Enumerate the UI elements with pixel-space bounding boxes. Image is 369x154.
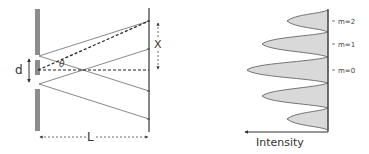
slit-geometry-panel: d θ X L [15,8,163,144]
double-slit-diagram: d θ X L m=2 m=1 m=0 Intensity [0,0,369,154]
peak-m1-upper [262,32,328,57]
intensity-axis-label: Intensity [256,136,304,149]
slit-separation-label: d [15,63,23,77]
peak-m2-lower [287,108,328,130]
peak-m2-upper [287,10,328,32]
dashed-lines [38,21,149,70]
order-label-m0: m=0 [338,67,355,75]
peak-m1-lower [262,83,328,108]
intensity-pattern-panel: m=2 m=1 m=0 Intensity [245,9,355,149]
order-label-m2: m=2 [338,18,355,26]
order-ticks [332,21,335,70]
fringe-position-label: X [154,38,162,51]
order-label-m1: m=1 [338,41,355,49]
screen-distance-label: L [87,130,94,144]
intensity-peaks [247,10,328,130]
angle-label: θ [59,59,65,69]
peak-m0 [247,57,328,83]
